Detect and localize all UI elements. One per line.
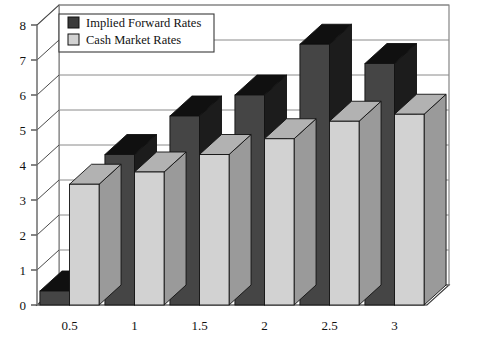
bar-side-face [359,101,381,305]
bar [70,164,122,305]
y-axis-tick-label: 3 [20,193,27,208]
y-axis-tick-label: 0 [20,298,27,313]
x-axis-tick-label: 1.5 [191,318,207,333]
y-axis-tick-label: 1 [20,263,27,278]
x-axis-tick-label: 2 [261,318,268,333]
bar [395,94,447,305]
bar-side-face [99,164,121,305]
bar [330,101,382,305]
bar-side-face [424,94,446,305]
bar-side-face [229,135,251,306]
x-axis-tick-label: 0.5 [61,318,77,333]
bar [200,135,252,306]
x-axis-tick-label: 2.5 [321,318,337,333]
chart-canvas: 0.511.522.53 012345678 Implied Forward R… [0,0,483,344]
bar-front-face [40,291,70,305]
bar-front-face [395,114,425,305]
y-axis-labels: 012345678 [20,18,27,313]
bar-side-face [164,152,186,305]
legend-label: Implied Forward Rates [86,16,201,30]
bar-front-face [265,139,295,305]
chart-legend: Implied Forward RatesCash Market Rates [59,14,214,52]
bar-front-face [70,184,100,305]
legend-swatch [68,17,79,28]
legend-swatch [68,34,79,45]
y-axis-tick-label: 2 [20,228,27,243]
y-axis-tick-label: 5 [20,123,27,138]
bar [135,152,187,305]
x-axis-tick-label: 1 [131,318,138,333]
x-axis-labels: 0.511.522.53 [61,318,397,333]
y-axis-tick-label: 8 [20,18,27,33]
y-axis-tick-label: 4 [20,158,27,173]
legend-label: Cash Market Rates [86,33,181,47]
y-axis-tick-label: 6 [20,88,27,103]
bar-front-face [330,121,360,305]
bar-front-face [135,172,165,305]
x-axis-tick-label: 3 [391,318,398,333]
y-axis-tick-label: 7 [20,53,27,68]
bar-side-face [294,119,316,305]
bar [265,119,317,305]
bar-chart: 0.511.522.53 012345678 Implied Forward R… [0,0,483,344]
bar-front-face [200,155,230,306]
